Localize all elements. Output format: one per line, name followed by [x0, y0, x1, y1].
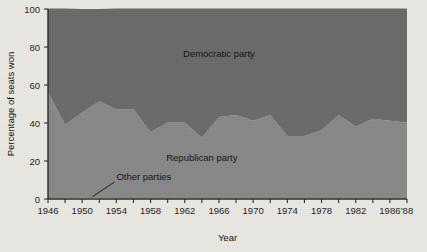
x-tick-label: 1954: [106, 205, 127, 216]
x-tick-label: 1982: [345, 205, 366, 216]
y-tick-label: 20: [29, 156, 40, 167]
y-tick-label: 0: [35, 194, 40, 205]
x-tick-label: 1950: [72, 205, 93, 216]
x-tick-label: '88: [401, 205, 413, 216]
area-chart: 1946195019541958196219661970197419781982…: [0, 0, 427, 252]
x-tick-label: 1970: [243, 205, 264, 216]
x-tick-label: 1966: [208, 205, 229, 216]
x-tick-label: 1986: [379, 205, 400, 216]
x-tick-label: 1958: [140, 205, 161, 216]
y-tick-label: 40: [29, 118, 40, 129]
x-tick-label: 1962: [174, 205, 195, 216]
y-tick-label: 100: [24, 4, 40, 15]
x-tick-label: 1946: [37, 205, 58, 216]
other-parties-label: Other parties: [116, 171, 171, 182]
stacked-areas: [48, 9, 407, 199]
y-axis-title: Percentage of seats won: [5, 52, 16, 157]
y-tick-label: 80: [29, 42, 40, 53]
x-axis-title: Year: [218, 232, 237, 243]
democratic-party-label: Democratic party: [183, 48, 255, 59]
chart-figure: 1946195019541958196219661970197419781982…: [0, 0, 427, 252]
x-tick-label: 1978: [311, 205, 332, 216]
republican-party-label: Republican party: [166, 152, 238, 163]
x-tick-label: 1974: [277, 205, 298, 216]
y-tick-label: 60: [29, 80, 40, 91]
